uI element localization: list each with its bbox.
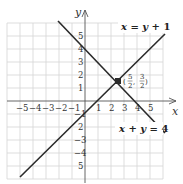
x-tick-label: −4 [29, 103, 42, 113]
y-axis-label: y [74, 6, 82, 19]
point-label-open-paren: ( [123, 78, 126, 86]
y-tick-label: 2 [78, 122, 83, 132]
intersection-point [115, 78, 121, 84]
point-label-den1: 2 [128, 82, 132, 90]
x-tick-label: 2 [109, 103, 114, 113]
intersection-label: ( 5 2 , 3 2 ) [123, 73, 148, 90]
x-tick-label: 1 [96, 103, 101, 113]
x-tick-label: 3 [122, 103, 127, 113]
x-tick-label: 5 [148, 103, 153, 113]
x-tick-label: −2 [55, 103, 68, 113]
point-label-den2: 2 [140, 82, 144, 90]
point-label-comma: , [133, 78, 135, 86]
y-tick-label: −3 [74, 135, 87, 145]
equation-label-line1: x = y + 1 [120, 21, 170, 32]
y-tick-label: 3 [78, 57, 83, 67]
y-tick-label: −4 [74, 148, 87, 158]
point-label-num2: 3 [140, 73, 144, 81]
y-tick-label: 5 [78, 31, 83, 41]
point-label-num1: 5 [128, 73, 132, 81]
y-tick-label: 1 [78, 83, 83, 93]
equation-label-line2: x + y = 4 [118, 123, 168, 134]
y-tick-label: 2 [78, 70, 83, 80]
coordinate-plane: x y −5 −4 −3 −2 −1 1 2 3 4 5 5 4 3 2 1 −… [0, 0, 183, 184]
y-tick-label: 5 [78, 161, 83, 171]
x-tick-label: −5 [16, 103, 29, 113]
x-tick-label: −3 [42, 103, 55, 113]
x-axis-label: x [172, 105, 179, 118]
point-label-close-paren: ) [145, 78, 148, 86]
